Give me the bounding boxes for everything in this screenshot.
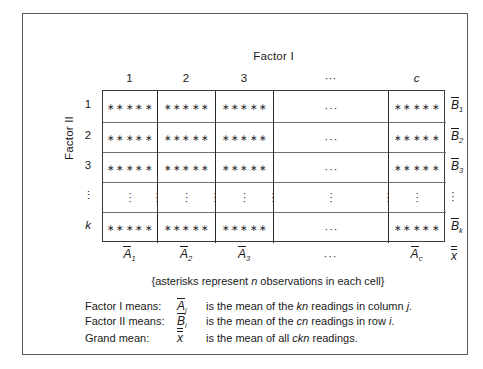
table-cell: ···	[389, 191, 446, 203]
factor-i-means-row: A1A2A3···Ac	[102, 246, 445, 266]
column-header-4: ···	[273, 69, 388, 87]
table-cell: ∗∗∗∗∗	[389, 102, 446, 112]
table-cell: ···	[274, 191, 389, 203]
table-cell: ∗∗∗∗∗	[103, 102, 158, 112]
table-cell: ···	[103, 191, 158, 203]
column-header-3: 3	[215, 69, 273, 87]
factor-ii-mean-ellipsis: ···	[451, 190, 483, 202]
column-header-1: 1	[102, 69, 157, 87]
factor-i-mean-1: A1	[102, 246, 157, 263]
table-cell: ∗∗∗∗∗	[389, 133, 446, 143]
table-cell: ···	[158, 191, 216, 203]
table-cell: ∗∗∗∗∗	[158, 102, 216, 112]
table-cell: ∗∗∗∗∗	[216, 133, 274, 143]
factor-ii-mean-2: B2	[451, 128, 483, 145]
table-cell: ···	[274, 163, 389, 175]
table-row-rule	[103, 182, 446, 183]
row-header-4: ⋮	[79, 189, 97, 202]
table-row-rule	[103, 212, 446, 213]
table-cell: ∗∗∗∗∗	[158, 133, 216, 143]
grand-mean-symbol: x	[451, 246, 457, 263]
table-cell: ∗∗∗∗∗	[103, 163, 158, 173]
factor-i-title: Factor I	[102, 50, 445, 62]
legend-label-1: Factor I means:	[85, 300, 177, 312]
asterisk-note-prefix: {asterisks represent	[152, 275, 252, 287]
legend-text-1: is the mean of the kn readings in column…	[203, 300, 412, 312]
table-cell: ∗∗∗∗∗	[216, 223, 274, 233]
table-cell: ∗∗∗∗∗	[158, 163, 216, 173]
row-header-1: 1	[79, 98, 97, 110]
row-header-3: 3	[79, 159, 97, 171]
grand-mean-double-bar: x	[451, 246, 457, 262]
anova-data-table: ············∗∗∗∗∗∗∗∗∗∗∗∗∗∗∗···∗∗∗∗∗∗∗∗∗∗…	[102, 90, 445, 242]
table-row-rule	[103, 152, 446, 153]
table-cell: ∗∗∗∗∗	[216, 163, 274, 173]
asterisk-footnote: {asterisks represent n observations in e…	[45, 275, 483, 287]
factor-i-mean-ellipsis: ···	[273, 250, 388, 262]
factor-ii-mean-3: B3	[451, 158, 483, 175]
legend-label-3: Grand mean:	[85, 332, 177, 344]
column-header-5: c	[388, 69, 445, 87]
table-cell: ···	[274, 223, 389, 235]
legend-line-3: Grand mean:x is the mean of all ckn read…	[85, 328, 358, 345]
factor-i-mean-2: A2	[157, 246, 215, 263]
legend-symbol-3: x	[177, 328, 203, 345]
table-cell: ∗∗∗∗∗	[103, 133, 158, 143]
legend-text-3: is the mean of all ckn readings.	[203, 332, 358, 344]
table-cell: ∗∗∗∗∗	[158, 223, 216, 233]
table-cell: ···	[274, 102, 389, 114]
table-cell: ∗∗∗∗∗	[389, 223, 446, 233]
row-header-5: k	[79, 219, 97, 231]
table-cell: ∗∗∗∗∗	[389, 163, 446, 173]
factor-i-mean-5: Ac	[388, 246, 445, 263]
column-header-2: 2	[157, 69, 215, 87]
table-cell: ∗∗∗∗∗	[216, 102, 274, 112]
figure-frame: Factor I Factor II 123···c 123⋮k ·······…	[22, 13, 468, 355]
legend-label-2: Factor II means:	[85, 315, 177, 327]
table-cell: ···	[274, 133, 389, 145]
factor-i-mean-3: A3	[215, 246, 273, 263]
asterisk-note-suffix: observations in each cell}	[257, 275, 384, 287]
factor-ii-mean-1: B1	[451, 97, 483, 114]
table-cell: ∗∗∗∗∗	[103, 223, 158, 233]
column-header-row: 123···c	[102, 69, 445, 87]
table-cell: ···	[216, 191, 274, 203]
legend-text-2: is the mean of the cn readings in row i.	[203, 315, 394, 327]
factor-ii-title: Factor II	[63, 88, 75, 188]
row-header-2: 2	[79, 129, 97, 141]
factor-ii-mean-5: Bk	[451, 218, 483, 235]
table-row-rule	[103, 122, 446, 123]
